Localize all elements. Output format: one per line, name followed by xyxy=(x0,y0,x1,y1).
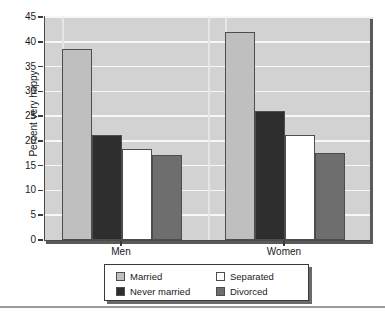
y-axis-tick-label: 20 xyxy=(25,136,36,146)
chart-legend: Married Never married Separated Divorced xyxy=(104,264,309,301)
legend-swatch-divorced xyxy=(216,287,225,296)
y-axis-tick xyxy=(38,91,43,93)
y-axis-tick xyxy=(38,214,43,216)
legend-swatch-separated xyxy=(216,272,225,281)
y-axis-tick xyxy=(38,165,43,167)
bar-men-separated xyxy=(122,149,152,240)
y-axis-tick-label: 0 xyxy=(30,235,36,245)
x-axis-label-men: Men xyxy=(81,246,161,257)
plot-bottom-shadow xyxy=(46,241,373,244)
legend-swatch-married xyxy=(116,272,125,281)
legend-label-married: Married xyxy=(130,271,162,282)
bar-men-married xyxy=(62,49,92,240)
bar-women-never-married xyxy=(255,111,285,240)
y-axis-tick xyxy=(38,115,43,117)
legend-label-never-married: Never married xyxy=(130,286,190,297)
bar-chart-figure: Percent very happy 051015202530354045 Me… xyxy=(0,0,385,313)
legend-item-divorced: Divorced xyxy=(216,286,268,297)
legend-label-separated: Separated xyxy=(230,271,274,282)
y-axis-tick xyxy=(38,41,43,43)
legend-right-shadow xyxy=(309,267,312,304)
bar-women-separated xyxy=(285,135,315,240)
legend-item-never-married: Never married xyxy=(116,286,190,297)
y-axis-tick-label: 30 xyxy=(25,86,36,96)
y-axis-tick xyxy=(38,140,43,142)
bar-women-married xyxy=(225,32,255,240)
page-bottom-rule xyxy=(0,306,385,308)
legend-item-separated: Separated xyxy=(216,271,274,282)
legend-label-divorced: Divorced xyxy=(230,286,268,297)
vertical-band-line xyxy=(208,17,210,240)
legend-swatch-never-married xyxy=(116,287,125,296)
y-axis-tick-label: 10 xyxy=(25,185,36,195)
y-axis-tick-label: 45 xyxy=(25,12,36,22)
plot-area xyxy=(44,17,371,241)
y-axis-tick-label: 15 xyxy=(25,161,36,171)
plot-right-shadow xyxy=(370,19,373,242)
y-axis-tick xyxy=(38,190,43,192)
x-axis-label-women: Women xyxy=(244,246,324,257)
y-axis-tick xyxy=(38,16,43,18)
y-axis-tick-label: 35 xyxy=(25,62,36,72)
y-axis-tick-label: 5 xyxy=(30,210,36,220)
bar-men-divorced xyxy=(152,155,182,240)
bar-women-divorced xyxy=(315,153,345,240)
y-axis-tick xyxy=(38,66,43,68)
legend-bottom-shadow xyxy=(107,301,312,304)
y-axis-tick-label: 25 xyxy=(25,111,36,121)
legend-item-married: Married xyxy=(116,271,162,282)
y-axis-tick xyxy=(38,239,43,241)
bar-men-never-married xyxy=(92,135,122,240)
y-axis-tick-label: 40 xyxy=(25,37,36,47)
